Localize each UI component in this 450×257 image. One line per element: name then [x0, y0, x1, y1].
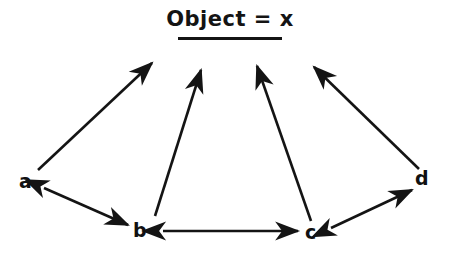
node-label-a: a	[19, 172, 32, 191]
edge-b-to-object	[155, 70, 201, 216]
node-label-c: c	[305, 223, 316, 242]
edge-c-d	[331, 190, 412, 228]
node-label-d: d	[415, 169, 429, 188]
diagram-figure: Object = x a b c d	[0, 0, 450, 257]
edge-d-to-object	[314, 67, 419, 169]
object-title-block: Object = x	[150, 8, 310, 40]
node-label-b: b	[133, 221, 147, 240]
title-underline	[178, 37, 282, 40]
edge-a-to-object	[38, 63, 152, 170]
object-title-text: Object = x	[150, 8, 310, 31]
edge-c-to-object	[257, 66, 311, 221]
edge-a-b	[44, 188, 128, 225]
